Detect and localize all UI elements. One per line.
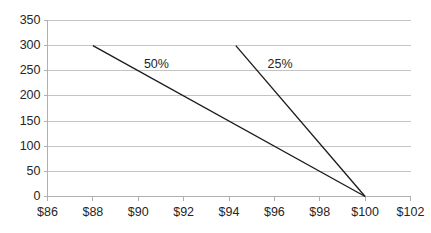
y-tick-label-100: 100	[20, 140, 41, 153]
axes	[48, 21, 411, 197]
chart-plot-area	[0, 0, 431, 233]
y-tick-label-350: 350	[20, 14, 41, 27]
y-tick-label-250: 250	[20, 64, 41, 77]
y-tick-label-200: 200	[20, 89, 41, 102]
gridlines	[48, 21, 411, 172]
chart-container: 050100150200250300350 $86$88$90$92$94$96…	[0, 0, 431, 233]
series-annotation-50pct: 50%	[144, 58, 169, 71]
x-tick-label-102: $102	[381, 206, 431, 219]
y-tick-label-300: 300	[20, 39, 41, 52]
y-tick-label-0: 0	[34, 190, 41, 203]
tick-marks	[44, 21, 411, 201]
y-tick-label-50: 50	[27, 165, 41, 178]
y-tick-label-150: 150	[20, 115, 41, 128]
series-annotation-25pct: 25%	[268, 58, 293, 71]
